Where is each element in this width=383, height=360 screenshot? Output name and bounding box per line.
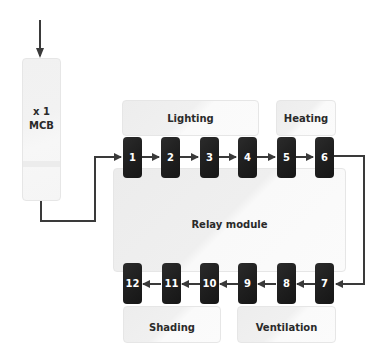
shading-group: Shading (123, 306, 221, 343)
relay-module: Relay module (113, 168, 346, 272)
terminal-label: 10 (203, 278, 217, 289)
terminal-label: 11 (165, 278, 179, 289)
terminal-label: 1 (129, 152, 136, 163)
terminal-6: 6 (315, 137, 334, 178)
lighting-label: Lighting (167, 113, 214, 124)
mcb-quantity: x 1 (23, 105, 60, 119)
terminal-label: 3 (206, 152, 213, 163)
shading-label: Shading (149, 322, 195, 333)
terminal-3: 3 (200, 137, 219, 178)
ventilation-group: Ventilation (237, 306, 336, 343)
terminal-10: 10 (200, 263, 219, 304)
heating-label: Heating (284, 113, 328, 124)
mcb-box: x 1 MCB (22, 58, 61, 201)
mcb-label: x 1 MCB (23, 105, 60, 133)
terminal-1: 1 (123, 137, 142, 178)
heating-group: Heating (276, 100, 336, 136)
terminal-5: 5 (277, 137, 296, 178)
terminal-label: 6 (321, 152, 328, 163)
ventilation-label: Ventilation (256, 322, 318, 333)
terminal-8: 8 (277, 263, 296, 304)
mcb-band (23, 161, 60, 167)
terminal-label: 5 (283, 152, 290, 163)
terminal-label: 8 (283, 278, 290, 289)
terminal-label: 9 (244, 278, 251, 289)
lighting-group: Lighting (122, 100, 259, 136)
terminal-label: 7 (321, 278, 328, 289)
terminal-2: 2 (161, 137, 180, 178)
mcb-name: MCB (23, 119, 60, 133)
terminal-4: 4 (238, 137, 257, 178)
terminal-label: 4 (244, 152, 251, 163)
terminal-7: 7 (315, 263, 334, 304)
terminal-11: 11 (162, 263, 181, 304)
terminal-9: 9 (238, 263, 257, 304)
terminal-12: 12 (123, 263, 142, 304)
relay-module-label: Relay module (114, 219, 345, 230)
terminal-label: 2 (167, 152, 174, 163)
terminal-label: 12 (126, 278, 140, 289)
